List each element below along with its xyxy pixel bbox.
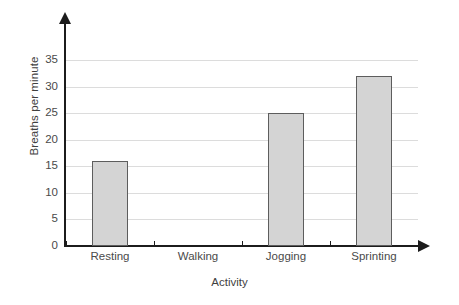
y-tick-label: 15 xyxy=(10,160,58,172)
y-tick-label: 5 xyxy=(10,213,58,225)
y-tick-label: 25 xyxy=(10,107,58,119)
x-tick-label-walking: Walking xyxy=(178,250,218,264)
x-tick-mark xyxy=(418,241,419,246)
x-tick-label-jogging: Jogging xyxy=(266,250,306,264)
y-tick-label: 30 xyxy=(10,81,58,93)
bar-chart: Breaths per minute 05101520253035 Restin… xyxy=(0,0,459,305)
y-tick-label-wrap: 35 xyxy=(10,54,58,66)
bar-resting xyxy=(92,161,128,246)
y-tick-label-wrap: 30 xyxy=(10,81,58,93)
y-tick-label-wrap: 10 xyxy=(10,187,58,199)
y-tick-label-wrap: 15 xyxy=(10,160,58,172)
y-tick-label-wrap: 20 xyxy=(10,134,58,146)
x-axis-title: Activity xyxy=(0,276,459,288)
x-tick-mark xyxy=(66,241,67,246)
y-tick-label: 0 xyxy=(10,240,58,252)
y-axis-line xyxy=(64,22,66,247)
y-tick-label-wrap: 0 xyxy=(10,240,58,252)
y-tick-label-wrap: 25 xyxy=(10,107,58,119)
y-tick-label: 10 xyxy=(10,187,58,199)
y-tick-label: 35 xyxy=(10,54,58,66)
x-tick-mark xyxy=(242,241,243,246)
x-tick-mark xyxy=(330,241,331,246)
x-tick-label-resting: Resting xyxy=(91,250,130,264)
x-tick-mark xyxy=(154,241,155,246)
bar-sprinting xyxy=(356,76,392,246)
x-tick-label-sprinting: Sprinting xyxy=(351,250,396,264)
y-tick-label: 20 xyxy=(10,134,58,146)
gridline xyxy=(66,60,418,61)
x-axis-arrow-icon xyxy=(418,240,430,252)
y-axis-arrow-icon xyxy=(59,12,71,24)
bar-jogging xyxy=(268,113,304,246)
y-tick-label-wrap: 5 xyxy=(10,213,58,225)
